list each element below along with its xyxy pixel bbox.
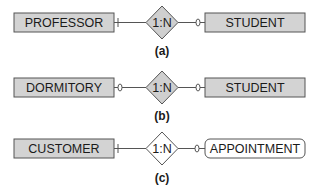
entity-label: CUSTOMER (28, 142, 99, 156)
er-part-c: CUSTOMER 1:N APPOINTMENT (c) (14, 132, 305, 185)
relationship-label: 1:N (152, 16, 171, 30)
caption: (b) (154, 109, 169, 123)
entity-label: STUDENT (225, 81, 284, 95)
entity-dormitory: DORMITORY (14, 78, 114, 97)
caption: (c) (155, 171, 170, 185)
entity-customer: CUSTOMER (14, 139, 114, 158)
relationship-diamond: 1:N (146, 71, 178, 104)
entity-student: STUDENT (205, 78, 305, 97)
relationship-diamond: 1:N (146, 6, 178, 39)
entity-professor: PROFESSOR (14, 13, 114, 32)
relationship-diamond: 1:N (146, 132, 178, 165)
relationship-label: 1:N (152, 81, 171, 95)
caption: (a) (155, 44, 170, 58)
circle-marker-icon (118, 84, 122, 91)
circle-marker-icon (196, 19, 200, 26)
relationship-label: 1:N (152, 142, 171, 156)
er-part-a: PROFESSOR 1:N STUDENT (a) (14, 6, 305, 58)
entity-student: STUDENT (205, 13, 305, 32)
circle-marker-icon (196, 84, 200, 91)
entity-label: PROFESSOR (25, 16, 104, 30)
entity-label: STUDENT (225, 16, 284, 30)
entity-label: DORMITORY (26, 81, 103, 95)
er-part-b: DORMITORY 1:N STUDENT (b) (14, 71, 305, 123)
circle-marker-icon (195, 145, 199, 152)
entity-appointment: APPOINTMENT (205, 139, 305, 158)
entity-label: APPOINTMENT (210, 142, 301, 156)
